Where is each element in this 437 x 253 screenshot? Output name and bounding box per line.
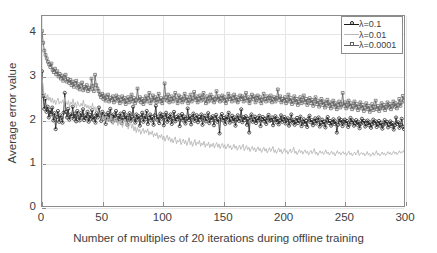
legend-marker-icon (344, 40, 359, 50)
legend-marker-icon (344, 19, 359, 29)
gridline-horizontal (42, 208, 404, 209)
legend-label: λ=0.1 (359, 19, 381, 29)
chart-figure: 01234050100150200250300 Number of multip… (0, 0, 437, 253)
gridline-vertical (406, 16, 407, 206)
legend: λ=0.1λ=0.01λ=0.0001 (341, 16, 403, 54)
x-tick-label: 100 (142, 211, 182, 223)
x-tick-label: 250 (324, 211, 364, 223)
y-tick (42, 208, 46, 209)
legend-label: λ=0.01 (359, 30, 386, 40)
y-axis-title: Average error value (6, 38, 18, 188)
x-tick-label: 150 (203, 211, 243, 223)
x-tick-label: 300 (385, 211, 425, 223)
legend-entry[interactable]: λ=0.0001 (344, 40, 399, 51)
legend-entry[interactable]: λ=0.1 (344, 19, 399, 30)
x-tick-label: 0 (21, 211, 61, 223)
x-tick-label: 200 (264, 211, 304, 223)
y-tick-label: 4 (6, 25, 36, 37)
legend-entry[interactable]: λ=0.01 (344, 30, 399, 41)
x-axis-title: Number of multiples of 20 iterations dur… (0, 232, 437, 244)
x-tick-label: 50 (82, 211, 122, 223)
x-tick (406, 202, 407, 206)
legend-label: λ=0.0001 (359, 40, 396, 50)
legend-marker-icon (344, 30, 359, 40)
